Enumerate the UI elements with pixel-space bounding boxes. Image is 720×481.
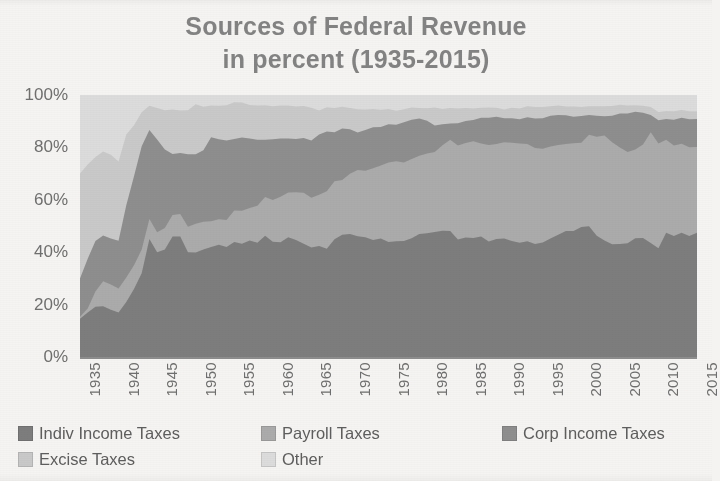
- legend-item[interactable]: Payroll Taxes: [261, 424, 380, 443]
- x-axis-tick-label: 1975: [395, 362, 412, 397]
- area-series-indiv-income-taxes: [80, 226, 697, 357]
- legend-item[interactable]: Corp Income Taxes: [502, 424, 665, 443]
- legend-swatch-icon: [18, 426, 33, 441]
- legend-item-label: Other: [282, 450, 323, 469]
- legend-swatch-icon: [261, 426, 276, 441]
- x-axis-tick-label: 1980: [433, 362, 450, 397]
- chart-title-line1: Sources of Federal Revenue: [185, 12, 526, 40]
- y-axis-tick-label: 40%: [34, 242, 68, 262]
- legend-item[interactable]: Indiv Income Taxes: [18, 424, 180, 443]
- legend-item-label: Corp Income Taxes: [523, 424, 665, 443]
- y-axis-tick-label: 80%: [34, 137, 68, 157]
- legend-swatch-icon: [18, 452, 33, 467]
- chart-legend: Indiv Income TaxesPayroll TaxesCorp Inco…: [18, 424, 708, 476]
- x-axis-tick-label: 1945: [163, 362, 180, 397]
- y-axis-tick-label: 0%: [43, 347, 68, 367]
- x-axis-line: [80, 357, 697, 359]
- x-axis-tick-label: 1935: [86, 362, 103, 397]
- legend-item-label: Indiv Income Taxes: [39, 424, 180, 443]
- x-axis-tick-label: 2005: [626, 362, 643, 397]
- x-axis-tick-label: 1955: [240, 362, 257, 397]
- legend-swatch-icon: [502, 426, 517, 441]
- x-axis-tick-label: 1985: [472, 362, 489, 397]
- y-axis-tick-label: 20%: [34, 295, 68, 315]
- x-axis-tick-label: 1960: [279, 362, 296, 397]
- x-axis-tick-label: 1940: [125, 362, 142, 397]
- y-axis-tick-label: 100%: [25, 85, 68, 105]
- legend-item[interactable]: Other: [261, 450, 323, 469]
- x-axis-tick-label: 2010: [664, 362, 681, 397]
- legend-swatch-icon: [261, 452, 276, 467]
- x-axis-tick-label: 2015: [703, 362, 720, 397]
- x-axis-tick-label: 2000: [587, 362, 604, 397]
- x-axis-tick-label: 1970: [356, 362, 373, 397]
- stacked-area-chart: [80, 95, 697, 357]
- plot-area: [80, 95, 697, 357]
- x-axis: 1935194019451950195519601965197019751980…: [80, 360, 697, 418]
- x-axis-tick-label: 1965: [317, 362, 334, 397]
- x-axis-tick-label: 1995: [549, 362, 566, 397]
- y-axis-tick-label: 60%: [34, 190, 68, 210]
- legend-item-label: Excise Taxes: [39, 450, 135, 469]
- legend-item[interactable]: Excise Taxes: [18, 450, 135, 469]
- chart-title: Sources of Federal Revenue in percent (1…: [0, 10, 712, 76]
- chart-title-line2: in percent (1935-2015): [0, 43, 712, 76]
- legend-item-label: Payroll Taxes: [282, 424, 380, 443]
- y-axis: 0%20%40%60%80%100%: [0, 95, 74, 357]
- x-axis-tick-label: 1990: [510, 362, 527, 397]
- x-axis-tick-label: 1950: [202, 362, 219, 397]
